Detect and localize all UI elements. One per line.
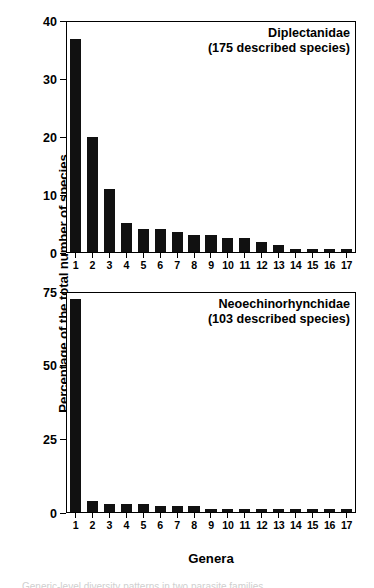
x-tick-mark [143,513,144,518]
x-tick-label: 6 [157,260,163,271]
x-tick-mark [177,253,178,258]
x-tick-group: 12 [253,513,270,531]
x-tick-label: 16 [324,520,335,531]
x-tick-group: 5 [135,513,152,531]
bar-slot [101,22,118,252]
bar-top-10 [222,238,233,252]
x-tick-group: 8 [186,513,203,531]
bar-bottom-8 [188,506,199,512]
x-tick-label: 7 [174,520,180,531]
x-tick-mark [194,513,195,518]
x-tick-label: 8 [191,260,197,271]
bar-slot [321,22,338,252]
x-tick-mark [92,253,93,258]
x-tick-mark [194,253,195,258]
x-tick-label: 17 [341,520,352,531]
x-tick-label: 14 [290,520,301,531]
bar-slot [236,22,253,252]
y-tick-label: 25 [43,434,57,447]
x-tick-label: 9 [208,260,214,271]
bar-top-16 [324,249,335,252]
x-axis-top: 1234567891011121314151617 [67,253,355,271]
x-tick-label: 3 [107,520,113,531]
bar-bottom-13 [273,509,284,512]
x-tick-mark [261,253,262,258]
x-tick-group: 6 [152,513,169,531]
y-tick-label: 0 [50,507,57,520]
x-tick-label: 11 [240,260,251,271]
x-tick-label: 16 [324,260,335,271]
x-tick-group: 17 [338,253,355,271]
x-tick-group: 11 [236,253,253,271]
x-tick-mark [143,253,144,258]
x-tick-label: 15 [307,520,318,531]
bar-top-15 [307,249,318,252]
bar-bottom-2 [87,501,98,512]
x-tick-mark [109,253,110,258]
y-tick-mark [60,137,66,138]
bar-slot [253,22,270,252]
x-tick-mark [126,253,127,258]
x-tick-mark [210,513,211,518]
y-tick-label: 75 [43,286,57,299]
x-axis-title: Genera [66,551,356,566]
x-tick-label: 5 [140,520,146,531]
x-tick-group: 10 [219,253,236,271]
x-tick-group: 13 [270,513,287,531]
bar-slot [84,22,101,252]
x-tick-group: 7 [169,253,186,271]
x-tick-mark [295,513,296,518]
x-tick-label: 7 [174,260,180,271]
bar-top-12 [256,242,267,252]
x-tick-label: 2 [90,260,96,271]
bar-slot [152,22,169,252]
bar-bottom-12 [256,509,267,512]
x-tick-mark [160,253,161,258]
y-axis-bottom: 0255075 [0,292,66,513]
x-tick-group: 4 [118,513,135,531]
bar-series-top [67,22,355,252]
x-tick-group: 7 [169,513,186,531]
bar-bottom-9 [205,509,216,512]
x-tick-label: 11 [240,520,251,531]
x-tick-label: 4 [123,260,129,271]
x-tick-group: 9 [203,253,220,271]
x-tick-group: 16 [321,253,338,271]
x-tick-mark [160,513,161,518]
bar-slot [287,22,304,252]
bar-slot [118,22,135,252]
panel-title-bottom-count: (103 described species) [208,312,350,327]
x-tick-label: 1 [73,260,79,271]
bar-slot [338,22,355,252]
bar-bottom-10 [222,509,233,512]
bar-top-14 [290,249,301,252]
y-tick-label: 20 [43,131,57,144]
bar-top-4 [121,223,132,252]
bar-top-13 [273,245,284,252]
y-tick-mark [60,439,66,440]
y-tick-label: 0 [50,247,57,260]
x-tick-group: 10 [219,513,236,531]
x-tick-group: 9 [203,513,220,531]
x-tick-label: 5 [140,260,146,271]
bar-slot [135,22,152,252]
panel-title-bottom-name: Neoechinorhynchidae [208,297,350,312]
panel-title-top-name: Diplectanidae [208,26,350,41]
x-tick-group: 2 [84,513,101,531]
bar-bottom-4 [121,504,132,512]
x-tick-mark [227,513,228,518]
x-tick-mark [210,253,211,258]
x-tick-mark [329,253,330,258]
y-tick-label: 10 [43,189,57,202]
x-tick-mark [244,513,245,518]
bar-slot [101,293,118,512]
bar-slot [84,293,101,512]
x-tick-mark [278,513,279,518]
bar-bottom-17 [341,509,352,512]
x-tick-mark [295,253,296,258]
x-tick-group: 1 [67,253,84,271]
x-tick-group: 11 [236,513,253,531]
bar-slot [169,22,186,252]
bar-bottom-1 [70,299,81,512]
x-tick-label: 13 [273,520,284,531]
